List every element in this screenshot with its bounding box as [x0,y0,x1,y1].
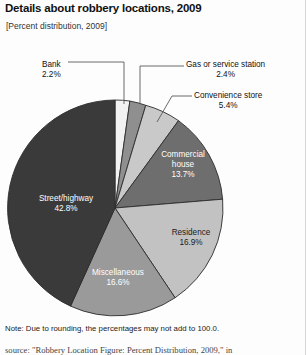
slice-label-residence-name: Residence [172,228,211,237]
slice-label-misc-value: 16.6% [106,278,129,287]
slice-label-miscellaneous: Miscellaneous 16.6% [78,268,158,288]
slice-label-street-value: 42.8% [54,204,77,213]
callout-convenience-store: Convenience store 5.4% [194,91,262,111]
slice-label-residence: Residence 16.9% [160,228,222,248]
slice-label-commercial-line2: house [172,160,194,169]
callout-bank: Bank 2.2% [42,60,61,80]
slice-label-commercial-house: Commercial house 13.7% [152,150,214,180]
callout-gas-label: Gas or service station [186,60,265,69]
page-edge-rule [305,0,306,355]
callout-gas-value: 2.4% [186,70,265,80]
slice-label-commercial-line1: Commercial [161,150,205,159]
slice-label-street-highway: Street/highway 42.8% [28,194,104,214]
chart-page: Details about robbery locations, 2009 [P… [0,0,306,355]
callout-bank-label: Bank [42,60,61,69]
slice-label-residence-value: 16.9% [179,238,202,247]
leader-line-bank [68,62,124,104]
callout-bank-value: 2.2% [42,70,61,80]
chart-note: Note: Due to rounding, the percentages m… [5,324,219,333]
leader-line-gas-or-service-station [140,66,184,104]
slice-label-commercial-value: 13.7% [171,170,194,179]
chart-source: source: "Robbery Location Figure: Percen… [5,345,232,355]
callout-gas-or-service-station: Gas or service station 2.4% [186,60,265,80]
callout-convenience-value: 5.4% [194,101,262,111]
slice-label-street-name: Street/highway [39,194,93,203]
pie-chart: Bank 2.2% Gas or service station 2.4% Co… [0,0,306,322]
slice-label-misc-name: Miscellaneous [92,268,144,277]
callout-convenience-label: Convenience store [194,91,262,100]
